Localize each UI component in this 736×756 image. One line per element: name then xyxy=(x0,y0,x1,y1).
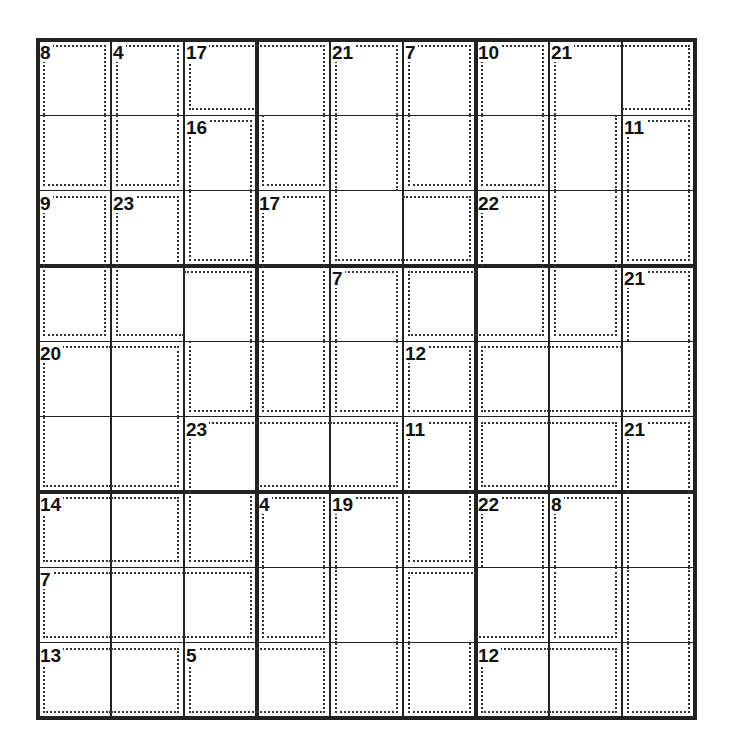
cage-outline-segment xyxy=(542,45,544,115)
cage-outline-segment xyxy=(43,115,45,185)
grid-cell[interactable] xyxy=(330,191,403,266)
grid-cell[interactable] xyxy=(622,191,695,266)
cage-outline-segment xyxy=(323,115,325,185)
grid-cell[interactable] xyxy=(549,341,622,416)
grid-cell[interactable] xyxy=(330,115,403,190)
cage-outline-segment xyxy=(615,191,617,266)
grid-cell[interactable] xyxy=(403,492,476,567)
grid-cell[interactable] xyxy=(403,115,476,190)
grid-cell[interactable] xyxy=(622,643,695,718)
grid-cell[interactable] xyxy=(476,266,549,341)
cage-outline-segment xyxy=(469,643,471,713)
grid-cell[interactable] xyxy=(476,341,549,416)
cage-outline-segment xyxy=(403,196,471,198)
box-border-line xyxy=(36,38,40,720)
grid-cell[interactable] xyxy=(257,115,330,190)
cage-outline-segment xyxy=(262,341,264,411)
cage-sum-label: 17 xyxy=(259,194,282,213)
grid-cell[interactable] xyxy=(403,266,476,341)
cage-outline-segment xyxy=(330,485,398,487)
grid-cell[interactable] xyxy=(403,643,476,718)
grid-cell[interactable] xyxy=(476,115,549,190)
grid-cell[interactable] xyxy=(549,115,622,190)
cage-outline-segment xyxy=(469,196,471,261)
grid-cell[interactable] xyxy=(184,341,257,416)
cage-outline-segment xyxy=(43,711,111,713)
grid-cell[interactable] xyxy=(257,417,330,492)
cage-outline-segment xyxy=(481,422,549,424)
grid-cell[interactable] xyxy=(257,266,330,341)
grid-cell[interactable] xyxy=(403,191,476,266)
grid-cell[interactable] xyxy=(184,492,257,567)
grid-cell[interactable] xyxy=(38,115,111,190)
grid-cell[interactable] xyxy=(111,417,184,492)
cage-outline-segment xyxy=(111,346,179,348)
cage-outline-segment xyxy=(688,271,690,341)
cage-outline-segment xyxy=(335,191,337,261)
cage-outline-segment xyxy=(549,422,617,424)
grid-cell[interactable] xyxy=(257,643,330,718)
cage-outline-segment xyxy=(262,636,325,638)
grid-cell[interactable] xyxy=(549,567,622,642)
grid-cell[interactable] xyxy=(622,492,695,567)
cage-sum-label: 21 xyxy=(624,269,647,288)
cage-outline-segment xyxy=(615,115,617,190)
grid-cell[interactable] xyxy=(622,341,695,416)
grid-cell[interactable] xyxy=(622,40,695,115)
grid-cell[interactable] xyxy=(549,191,622,266)
cage-outline-segment xyxy=(627,567,629,642)
grid-cell[interactable] xyxy=(330,341,403,416)
cage-outline-segment xyxy=(104,196,106,266)
grid-cell[interactable] xyxy=(184,567,257,642)
grid-cell[interactable] xyxy=(38,417,111,492)
grid-cell[interactable] xyxy=(549,417,622,492)
grid-cell[interactable] xyxy=(184,266,257,341)
cage-outline-segment xyxy=(622,45,690,47)
cage-outline-segment xyxy=(469,115,471,185)
cage-outline-segment xyxy=(116,334,184,336)
cage-outline-segment xyxy=(111,648,179,650)
cage-outline-segment xyxy=(408,115,410,185)
grid-cell[interactable] xyxy=(330,643,403,718)
cage-outline-segment xyxy=(189,560,252,562)
cage-outline-segment xyxy=(549,648,617,650)
grid-cell[interactable] xyxy=(476,417,549,492)
grid-cell[interactable] xyxy=(111,266,184,341)
cage-outline-segment xyxy=(688,191,690,261)
cage-outline-segment xyxy=(554,567,556,637)
cage-outline-segment xyxy=(615,266,617,336)
grid-cell[interactable] xyxy=(622,567,695,642)
grid-cell[interactable] xyxy=(330,417,403,492)
grid-cell[interactable] xyxy=(330,567,403,642)
grid-cell[interactable] xyxy=(38,266,111,341)
grid-cell[interactable] xyxy=(257,567,330,642)
grid-cell[interactable] xyxy=(111,115,184,190)
cage-outline-segment xyxy=(481,711,549,713)
cage-outline-segment xyxy=(549,410,622,412)
cage-outline-segment xyxy=(396,567,398,642)
grid-cell[interactable] xyxy=(549,643,622,718)
grid-line xyxy=(402,38,404,720)
cage-outline-segment xyxy=(257,711,325,713)
cage-outline-segment xyxy=(542,196,544,266)
grid-cell[interactable] xyxy=(257,40,330,115)
cage-outline-segment xyxy=(330,422,398,424)
grid-cell[interactable] xyxy=(184,191,257,266)
cage-outline-segment xyxy=(323,497,325,567)
cage-sum-label: 10 xyxy=(478,43,501,62)
cage-sum-label: 11 xyxy=(405,420,427,439)
grid-cell[interactable] xyxy=(111,341,184,416)
grid-cell[interactable] xyxy=(257,341,330,416)
cage-outline-segment xyxy=(257,648,325,650)
cage-sum-label: 9 xyxy=(40,194,53,213)
box-border-line xyxy=(36,264,697,268)
cage-outline-segment xyxy=(323,341,325,411)
grid-cell[interactable] xyxy=(111,567,184,642)
grid-cell[interactable] xyxy=(111,643,184,718)
cage-sum-label: 22 xyxy=(478,495,501,514)
cage-outline-segment xyxy=(250,120,252,190)
grid-cell[interactable] xyxy=(549,266,622,341)
grid-cell[interactable] xyxy=(403,567,476,642)
grid-cell[interactable] xyxy=(476,567,549,642)
grid-cell[interactable] xyxy=(111,492,184,567)
